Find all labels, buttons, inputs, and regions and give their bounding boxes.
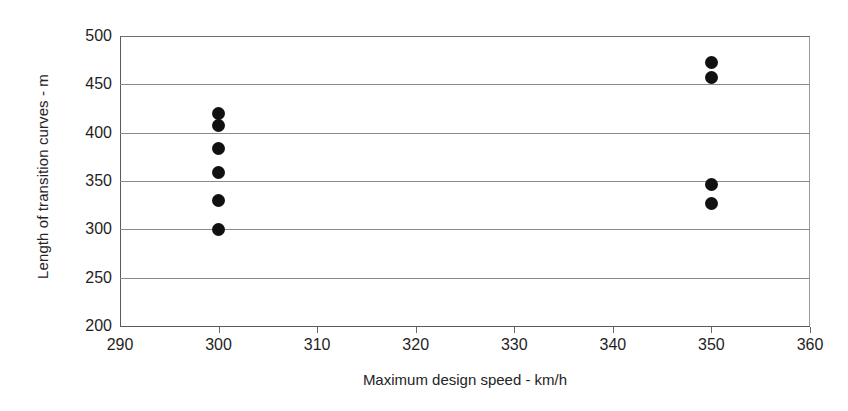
gridline-y-400 [120, 133, 810, 134]
gridline-y-250 [120, 278, 810, 279]
x-tick-label-360: 360 [780, 337, 840, 353]
x-axis-title: Maximum design speed - km/h [120, 371, 810, 388]
x-tick-label-320: 320 [386, 337, 446, 353]
plot-area [120, 36, 810, 326]
y-tick-label-200: 200 [60, 318, 112, 334]
y-axis-title: Length of transition curves - m [34, 17, 51, 337]
data-point [212, 194, 225, 207]
y-tick-label-350: 350 [60, 173, 112, 189]
gridline-y-450 [120, 84, 810, 85]
x-tick-label-290: 290 [90, 337, 150, 353]
x-tick-mark-310 [317, 327, 318, 333]
data-point [212, 223, 225, 236]
x-tick-label-340: 340 [583, 337, 643, 353]
y-tick-label-300: 300 [60, 221, 112, 237]
gridline-y-500 [120, 36, 810, 37]
x-axis-tick-labels: 290300310320330340350360 [120, 337, 810, 359]
gridline-y-200 [120, 326, 810, 327]
data-point [705, 56, 718, 69]
x-tick-label-310: 310 [287, 337, 347, 353]
x-tick-label-300: 300 [189, 337, 249, 353]
data-point [212, 142, 225, 155]
data-point [212, 166, 225, 179]
y-axis-tick-labels: 200250300350400450500 [56, 36, 112, 326]
y-tick-label-250: 250 [60, 270, 112, 286]
x-tick-mark-340 [613, 327, 614, 333]
data-point [705, 197, 718, 210]
data-point [212, 107, 225, 120]
x-tick-mark-300 [219, 327, 220, 333]
y-tick-label-400: 400 [60, 125, 112, 141]
data-point [705, 71, 718, 84]
x-tick-label-330: 330 [484, 337, 544, 353]
x-tick-mark-320 [416, 327, 417, 333]
x-tick-mark-330 [514, 327, 515, 333]
y-tick-label-450: 450 [60, 76, 112, 92]
x-tick-label-350: 350 [681, 337, 741, 353]
y-tick-label-500: 500 [60, 28, 112, 44]
x-tick-mark-360 [810, 327, 811, 333]
data-point [705, 178, 718, 191]
scatter-chart-figure: Length of transition curves - m 20025030… [0, 0, 848, 411]
data-point [212, 119, 225, 132]
x-tick-mark-350 [711, 327, 712, 333]
